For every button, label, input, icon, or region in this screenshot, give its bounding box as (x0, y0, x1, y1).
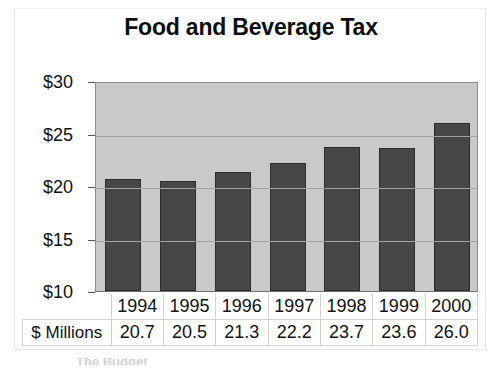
table-cell-1996: 21.3 (216, 320, 268, 346)
y-tick-label-15: $15 (43, 229, 73, 250)
table-cell-1997: 22.2 (268, 320, 320, 346)
table-cell-1999: 23.6 (373, 320, 425, 346)
table-header-1995: 1995 (163, 294, 215, 320)
table-cell-1998: 23.7 (320, 320, 372, 346)
y-tick-mark-15 (88, 240, 95, 241)
table-header-1996: 1996 (216, 294, 268, 320)
y-tick-mark-30 (88, 82, 95, 83)
page-edge-artifact: The Budget (76, 358, 266, 365)
bar-1999 (379, 148, 415, 291)
table-header-1998: 1998 (320, 294, 372, 320)
data-table: 1994199519961997199819992000$ Millions20… (22, 294, 478, 346)
gridline-25 (96, 136, 477, 137)
chart-figure: Food and Beverage Tax $10$15$20$25$30 19… (0, 0, 502, 368)
bar-1996 (215, 172, 251, 291)
bar-1998 (324, 147, 360, 291)
bar-1994 (105, 179, 141, 291)
table-row-years: 1994199519961997199819992000 (23, 294, 478, 320)
table-row-label: $ Millions (23, 320, 112, 346)
table-cell-2000: 26.0 (425, 320, 477, 346)
y-tick-mark-10 (88, 292, 95, 293)
bar-1995 (160, 181, 196, 291)
bars-layer (96, 83, 477, 291)
gridline-20 (96, 188, 477, 189)
table-row-values: $ Millions20.720.521.322.223.723.626.0 (23, 320, 478, 346)
table-corner-cell (23, 294, 112, 320)
table-cell-1995: 20.5 (163, 320, 215, 346)
table-cell-1994: 20.7 (111, 320, 163, 346)
y-tick-label-30: $30 (43, 72, 73, 93)
y-tick-label-20: $20 (43, 177, 73, 198)
y-tick-label-25: $25 (43, 124, 73, 145)
table-header-1999: 1999 (373, 294, 425, 320)
table-header-2000: 2000 (425, 294, 477, 320)
y-tick-mark-20 (88, 187, 95, 188)
bar-1997 (270, 163, 306, 291)
y-tick-mark-25 (88, 135, 95, 136)
table-header-1997: 1997 (268, 294, 320, 320)
table-header-1994: 1994 (111, 294, 163, 320)
gridline-15 (96, 241, 477, 242)
plot-area (95, 82, 478, 292)
data-table-body: 1994199519961997199819992000$ Millions20… (23, 294, 478, 346)
bar-2000 (434, 123, 470, 291)
